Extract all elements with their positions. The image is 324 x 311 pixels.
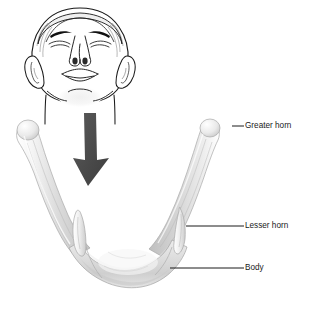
- hyoid-bone: [17, 119, 220, 288]
- label-greater-horn: Greater horn: [245, 121, 292, 130]
- pointer-arrow: [73, 113, 109, 186]
- label-group-body: Body: [170, 263, 265, 272]
- hyoid-bone-figure: Greater horn Lesser horn Body: [0, 0, 324, 311]
- label-lesser-horn: Lesser horn: [245, 221, 289, 230]
- head-inset: [25, 8, 135, 124]
- anatomy-illustration: Greater horn Lesser horn Body: [0, 0, 324, 311]
- label-body: Body: [245, 263, 265, 272]
- label-group-lesser-horn: Lesser horn: [186, 221, 289, 230]
- label-group-greater-horn: Greater horn: [232, 121, 292, 130]
- chin-underside: [58, 87, 102, 107]
- greater-horn-left-tip: [17, 120, 39, 140]
